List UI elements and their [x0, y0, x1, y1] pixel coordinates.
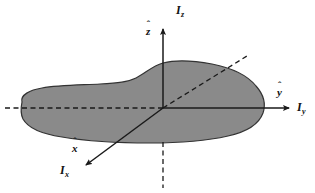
- zhat-glyph: ˆz: [146, 26, 150, 37]
- label-Iy-base: I: [297, 100, 302, 114]
- label-principal-inertia-x: Ix: [60, 164, 69, 179]
- label-Ix-base: I: [60, 163, 65, 177]
- label-Ix-sub: x: [65, 170, 69, 179]
- label-Iz-sub: z: [181, 10, 184, 19]
- label-principal-inertia-z: Iz: [176, 4, 184, 19]
- rigid-body-blob: [21, 61, 264, 143]
- label-unit-vector-x: ˆx: [72, 143, 78, 154]
- label-unit-vector-z: ˆz: [146, 26, 150, 37]
- xhat-glyph: ˆx: [72, 143, 78, 154]
- diagram-svg: [0, 0, 315, 193]
- label-unit-vector-y: ˆy: [277, 87, 282, 98]
- label-principal-inertia-y: Iy: [297, 101, 306, 116]
- label-Iz-base: I: [176, 3, 181, 17]
- hat-accent-icon: ˆ: [147, 20, 150, 30]
- hat-accent-icon: ˆ: [278, 81, 281, 91]
- label-Iy-sub: y: [302, 107, 306, 116]
- hat-accent-icon: ˆ: [73, 137, 76, 147]
- yhat-glyph: ˆy: [277, 87, 282, 98]
- figure-canvas: Iz ˆz Iy ˆy Ix ˆx: [0, 0, 315, 193]
